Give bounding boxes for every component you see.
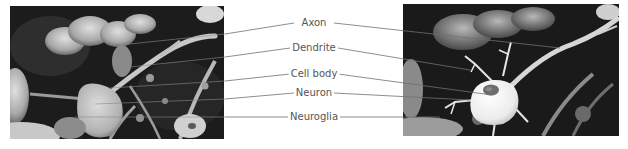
axon-leader-left	[225, 23, 294, 34]
label-dendrite: Dendrite	[290, 42, 338, 54]
cell-body-leader-left	[225, 74, 290, 81]
dendrite-leader-left	[225, 48, 290, 57]
label-neuroglia: Neuroglia	[288, 111, 340, 123]
right-micrograph-image	[403, 4, 619, 136]
label-cell-body: Cell body	[289, 68, 340, 80]
left-micrograph	[10, 6, 224, 139]
label-axon: Axon	[300, 17, 329, 29]
left-micrograph-image	[10, 6, 224, 139]
neuron-micrograph-figure: Axon Dendrite Cell body Neuron Neuroglia	[0, 0, 628, 149]
right-micrograph	[403, 4, 619, 136]
label-neuron: Neuron	[294, 87, 334, 99]
neuron-leader-left	[225, 93, 294, 99]
